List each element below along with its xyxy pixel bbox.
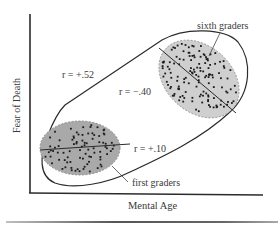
combined-correlation-label: r = +.52	[62, 70, 94, 80]
first-graders-correlation-label: r = +.10	[134, 144, 166, 154]
sixth-graders-label: sixth graders	[197, 21, 248, 31]
first-graders-cluster	[40, 121, 130, 175]
y-axis-label: Fear of Death	[11, 66, 22, 146]
x-axis-label: Mental Age	[128, 201, 177, 212]
scatter-diagram	[0, 0, 278, 228]
x-axis	[29, 193, 263, 195]
bottom-rule-divider	[6, 221, 278, 223]
first-graders-label: first graders	[132, 178, 180, 188]
sixth-graders-correlation-label: r = −.40	[119, 87, 151, 97]
